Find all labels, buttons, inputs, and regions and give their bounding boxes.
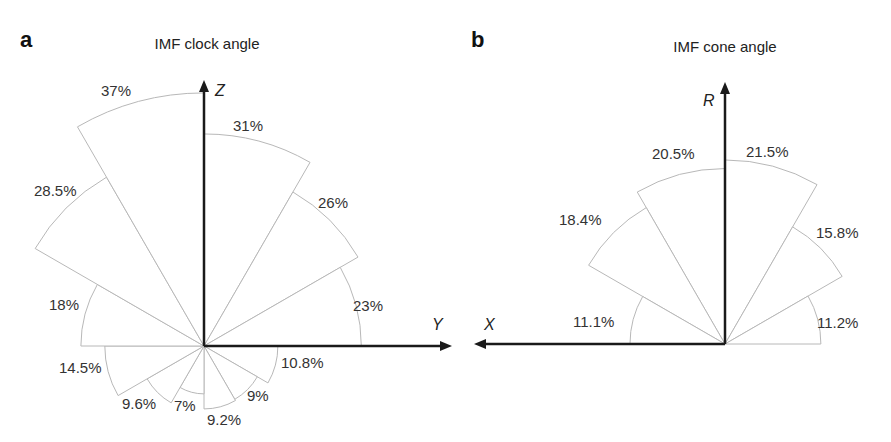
sector-label: 37% [101,82,131,99]
panel-b: b IMF cone angle R X 21.5% 15.8% 11.2% 2… [471,27,859,349]
z-axis-label: Z [214,82,226,99]
x-axis-arrowhead-icon [474,339,486,349]
figure-canvas: a IMF clock angle Z Y 31% 26% 23% 10.8% … [0,0,891,442]
sector-label: 10.8% [281,354,324,371]
sector-label: 9.6% [122,395,156,412]
sector-label: 11.2% [817,314,858,331]
r-axis-label: R [703,92,715,109]
y-axis-label: Y [432,316,444,333]
cone-angle-sectors [589,160,843,344]
sector-label: 21.5% [746,143,789,160]
sector-label: 15.8% [816,224,859,241]
sector-label: 26% [318,194,348,211]
panel-a-title: IMF clock angle [154,35,259,52]
panel-a-letter: a [20,27,33,52]
sector-label: 18% [49,296,79,313]
r-axis-arrowhead-icon [720,82,730,94]
z-axis-arrowhead-icon [199,80,209,92]
sector-label: 9.2% [207,411,241,428]
x-axis-label: X [483,316,496,333]
sector-label: 20.5% [652,145,695,162]
y-axis-arrowhead-icon [440,341,452,351]
panel-b-title: IMF cone angle [673,38,776,55]
panel-a: a IMF clock angle Z Y 31% 26% 23% 10.8% … [20,27,452,428]
sector-label: 18.4% [559,211,602,228]
sector-label: 23% [353,297,383,314]
sector-label: 11.1% [573,313,614,330]
sector-label: 31% [233,117,263,134]
sector-label: 9% [247,387,269,404]
panel-b-letter: b [471,27,484,52]
sector-label: 28.5% [34,182,77,199]
sector-label: 14.5% [59,359,102,376]
sector-label: 7% [174,397,196,414]
